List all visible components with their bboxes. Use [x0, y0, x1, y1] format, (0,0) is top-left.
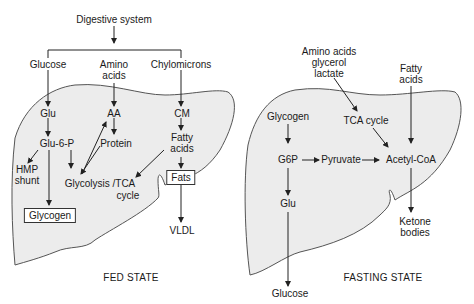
- fats-box: Fats: [166, 170, 195, 185]
- ketone-bodies-label: Ketonebodies: [399, 216, 431, 238]
- fasting-glucose-label: Glucose: [272, 288, 309, 299]
- glycogen-box: Glycogen: [24, 208, 76, 223]
- protein-label: Protein: [100, 138, 132, 149]
- cm-label: CM: [174, 108, 190, 119]
- glu-6-p-label: Glu-6-P: [40, 138, 74, 149]
- glycolysis-tca-label: Glycolysis /TCA: [65, 178, 136, 189]
- digestive-system-label: Digestive system: [76, 14, 152, 25]
- fatty-acids-label: Fattyacids: [170, 132, 193, 154]
- aa-label: AA: [107, 108, 120, 119]
- vldl-label: VLDL: [169, 225, 194, 236]
- diagram-canvas: [0, 0, 474, 304]
- fasting-glycogen-label: Glycogen: [267, 111, 309, 122]
- hmp-shunt-label: HMPshunt: [15, 164, 39, 186]
- glucose-input-label: Glucose: [30, 59, 67, 70]
- amino-acids-glycerol-lactate-label: Amino acidsglycerollactate: [302, 46, 356, 79]
- chylomicrons-input-label: Chylomicrons: [151, 59, 212, 70]
- amino-input-label: Aminoacids: [100, 59, 128, 81]
- fasting-glu-label: Glu: [280, 198, 296, 209]
- fed-state-title: FED STATE: [103, 272, 158, 283]
- tca-cycle-label: TCA cycle: [343, 115, 388, 126]
- pyruvate-label: Pyruvate: [321, 154, 360, 165]
- acetyl-coa-label: Acetyl-CoA: [386, 154, 436, 165]
- g6p-label: G6P: [278, 154, 298, 165]
- fasting-state-title: FASTING STATE: [344, 272, 423, 283]
- fasting-fatty-acids-label: Fattyacids: [399, 63, 422, 85]
- glu-label: Glu: [40, 108, 56, 119]
- cycle-label: cycle: [117, 190, 140, 201]
